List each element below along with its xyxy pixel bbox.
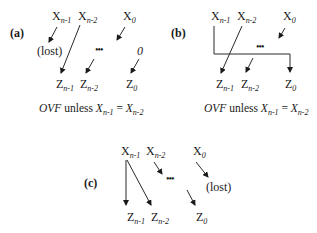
panel-a-fill-zero: 0	[137, 44, 143, 58]
panel-b: (b) Xn-1 Xn-2 X0 ••• Zn-1 Zn-2 Z0 OVF un…	[171, 9, 309, 117]
arrow-icon	[246, 58, 253, 72]
arrow-icon	[86, 59, 94, 73]
arrow-icon	[221, 26, 242, 73]
panel-c-label: (c)	[84, 176, 97, 190]
panel-b-output-zn1: Zn-1	[216, 77, 234, 93]
arrow-icon	[127, 160, 151, 205]
panel-b-caption: OVF unless Xn-1 = Xn-2	[204, 102, 309, 117]
panel-a-input-xn1: Xn-1	[52, 9, 71, 25]
arrow-icon	[279, 28, 285, 38]
arrow-icon	[61, 25, 80, 73]
panel-c-input-x0: X0	[193, 144, 206, 160]
panel-b-label: (b)	[171, 26, 186, 40]
panel-a-output-zn1: Zn-1	[56, 77, 74, 93]
panel-a-label: (a)	[10, 26, 24, 40]
shift-diagram: (a) Xn-1 Xn-2 X0 (lost) ••• 0 Zn-1 Zn-2 …	[0, 0, 317, 233]
arrow-icon	[187, 190, 195, 205]
panel-a: (a) Xn-1 Xn-2 X0 (lost) ••• 0 Zn-1 Zn-2 …	[10, 9, 144, 117]
panel-c-input-xn1: Xn-1	[121, 144, 140, 160]
ellipsis-icon: •••	[95, 44, 103, 55]
panel-a-input-x0: X0	[123, 9, 136, 25]
panel-c-output-zn1: Zn-1	[127, 210, 145, 226]
panel-c: (c) Xn-1 Xn-2 X0 ••• (lost) Zn-1 Zn-2 Z0	[84, 144, 231, 226]
panel-b-output-zn2: Zn-2	[241, 77, 259, 93]
panel-b-input-xn1: Xn-1	[211, 9, 230, 25]
arrow-icon	[117, 27, 125, 40]
panel-a-output-zn2: Zn-2	[80, 77, 98, 93]
panel-a-output-z0: Z0	[126, 77, 137, 93]
panel-c-output-z0: Z0	[196, 210, 207, 226]
panel-c-lost-label: (lost)	[206, 180, 231, 194]
panel-c-input-xn2: Xn-2	[146, 144, 165, 160]
panel-a-input-xn2: Xn-2	[78, 9, 97, 25]
ellipsis-icon: •••	[256, 41, 264, 52]
panel-a-lost-label: (lost)	[37, 44, 62, 58]
arrow-icon	[196, 162, 208, 177]
panel-a-caption: OVF unless Xn-1 = Xn-2	[39, 102, 144, 117]
arrow-icon	[49, 27, 57, 42]
ellipsis-icon: •••	[166, 173, 174, 184]
arrow-icon	[131, 59, 139, 73]
arrow-icon	[154, 162, 162, 174]
panel-b-input-x0: X0	[283, 9, 296, 25]
panel-b-output-z0: Z0	[285, 77, 296, 93]
sign-extend-path	[214, 26, 290, 72]
panel-b-input-xn2: Xn-2	[237, 9, 256, 25]
panel-c-output-zn2: Zn-2	[151, 210, 169, 226]
